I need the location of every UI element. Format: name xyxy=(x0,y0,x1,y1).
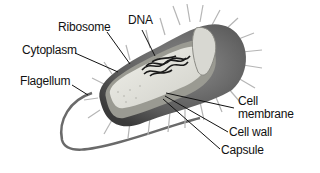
label-cytoplasm: Cytoplasm xyxy=(22,44,77,56)
label-ribosome: Ribosome xyxy=(58,21,110,33)
label-cell-membrane-line1: Cell xyxy=(238,95,258,107)
label-cell-wall: Cell wall xyxy=(229,126,272,138)
label-cell-membrane-line2: membrane xyxy=(238,108,294,120)
label-dna: DNA xyxy=(128,14,153,26)
label-flagellum: Flagellum xyxy=(20,75,70,87)
label-capsule: Capsule xyxy=(221,144,264,156)
